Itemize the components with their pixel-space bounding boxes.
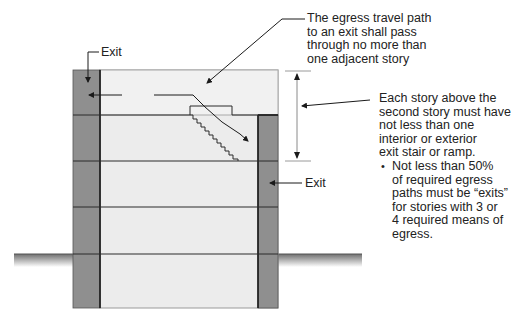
story-note-line: not less than one [379, 119, 511, 133]
top-story [100, 70, 278, 115]
story-dimension [285, 71, 311, 161]
story-note-line: interior or exterior [379, 133, 511, 147]
bullet-note-line: Not less than 50% [392, 160, 508, 174]
story-note-line: second story must have [379, 106, 511, 120]
bullet-note-line: of required egress [392, 174, 508, 188]
travel-note-line: through no more than [307, 39, 431, 53]
story-note-line: exit stair or ramp. [379, 146, 511, 160]
exits-percentage-note: • Not less than 50% of required egress p… [381, 160, 507, 250]
ground-left [14, 254, 73, 267]
exit-left-label: Exit [101, 46, 122, 60]
travel-note-line: one adjacent story [307, 53, 431, 67]
travel-note-line: to an exit shall pass [307, 26, 431, 40]
bullet-text: Not less than 50% of required egress pat… [392, 160, 508, 241]
exit-column-right [258, 115, 278, 308]
travel-path-note: The egress travel path to an exit shall … [307, 12, 431, 66]
travel-note-line: The egress travel path [307, 12, 431, 26]
exit-column-left [73, 70, 100, 308]
bullet-note-line: egress. [392, 228, 508, 242]
bullet-note-line: 4 required means of [392, 214, 508, 228]
story-requirement-note: Each story above the second story must h… [379, 92, 511, 160]
bullet-note-line: paths must be “exits” [392, 187, 508, 201]
bullet-note-line: for stories with 3 or [392, 201, 508, 215]
ground-right [278, 254, 362, 267]
exit-right-label: Exit [305, 177, 326, 191]
story-note-leader [302, 100, 370, 106]
story-note-line: Each story above the [379, 92, 511, 106]
bullet-icon: • [381, 160, 385, 174]
